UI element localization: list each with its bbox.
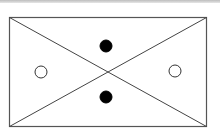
- hollow-circle-right: [169, 65, 181, 77]
- diagram-canvas: [0, 0, 220, 138]
- hollow-circle-left: [35, 66, 47, 78]
- filled-circle-top: [100, 40, 112, 52]
- filled-circle-bottom: [100, 91, 112, 103]
